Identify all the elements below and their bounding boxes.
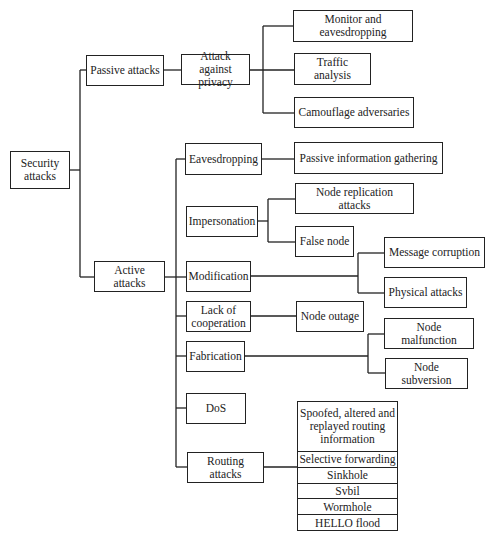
node-node-outage: Node outage bbox=[296, 301, 364, 332]
node-passive-attacks: Passive attacks bbox=[86, 55, 164, 86]
node-traffic-analysis: Traffic analysis bbox=[294, 53, 371, 85]
node-label: Node malfunction bbox=[388, 321, 470, 347]
node-label: Routing attacks bbox=[191, 455, 260, 481]
node-label: Message corruption bbox=[389, 246, 480, 259]
security-attacks-diagram: Security attacks Passive attacks Attack … bbox=[0, 0, 494, 540]
node-label: Physical attacks bbox=[389, 286, 463, 299]
node-attack-against-privacy: Attack against privacy bbox=[181, 54, 250, 85]
routing-list-item: Svbil bbox=[298, 484, 397, 500]
node-node-replication-attacks: Node replication attacks bbox=[295, 183, 414, 214]
node-label: Fabrication bbox=[189, 350, 241, 363]
node-node-malfunction: Node malfunction bbox=[384, 318, 474, 349]
routing-list-item: Selective forwarding bbox=[298, 452, 397, 468]
node-label: False node bbox=[300, 235, 350, 248]
node-label: Impersonation bbox=[189, 215, 255, 228]
node-eavesdropping: Eavesdropping bbox=[185, 143, 262, 175]
routing-list-header: Spoofed, altered and replayed routing in… bbox=[298, 402, 397, 452]
routing-list-item: Sinkhole bbox=[298, 468, 397, 484]
routing-attacks-list: Spoofed, altered and replayed routing in… bbox=[297, 401, 398, 531]
node-label: Modification bbox=[188, 270, 248, 283]
node-active-attacks: Active attacks bbox=[94, 261, 165, 292]
node-label: Lack of cooperation bbox=[190, 304, 247, 330]
node-impersonation: Impersonation bbox=[186, 206, 258, 237]
node-label: Security attacks bbox=[14, 157, 66, 183]
node-camouflage-adversaries: Camouflage adversaries bbox=[294, 97, 414, 128]
node-label: Traffic analysis bbox=[298, 56, 367, 82]
node-label: Passive information gathering bbox=[300, 152, 438, 165]
node-false-node: False node bbox=[295, 226, 354, 257]
node-label: Active attacks bbox=[98, 264, 161, 290]
node-physical-attacks: Physical attacks bbox=[384, 277, 467, 308]
node-label: DoS bbox=[206, 402, 226, 415]
node-node-subversion: Node subversion bbox=[385, 358, 468, 389]
node-label: Node subversion bbox=[389, 361, 464, 387]
node-label: Monitor and eavesdropping bbox=[297, 13, 409, 39]
node-monitor-eavesdropping: Monitor and eavesdropping bbox=[293, 10, 413, 42]
node-label: Passive attacks bbox=[90, 64, 159, 77]
node-modification: Modification bbox=[186, 261, 251, 292]
node-label: Node replication attacks bbox=[299, 186, 410, 212]
node-lack-of-cooperation: Lack of cooperation bbox=[186, 301, 251, 332]
node-security-attacks: Security attacks bbox=[10, 151, 70, 189]
node-label: Eavesdropping bbox=[189, 153, 258, 166]
node-dos: DoS bbox=[186, 393, 246, 424]
node-fabrication: Fabrication bbox=[186, 341, 245, 372]
node-label: Attack against privacy bbox=[185, 50, 246, 89]
node-passive-information-gathering: Passive information gathering bbox=[294, 142, 443, 174]
routing-list-item: HELLO flood bbox=[298, 515, 397, 530]
node-routing-attacks: Routing attacks bbox=[187, 452, 264, 483]
routing-list-item: Wormhole bbox=[298, 499, 397, 515]
node-message-corruption: Message corruption bbox=[384, 237, 485, 268]
node-label: Camouflage adversaries bbox=[299, 106, 410, 119]
node-label: Node outage bbox=[301, 310, 359, 323]
